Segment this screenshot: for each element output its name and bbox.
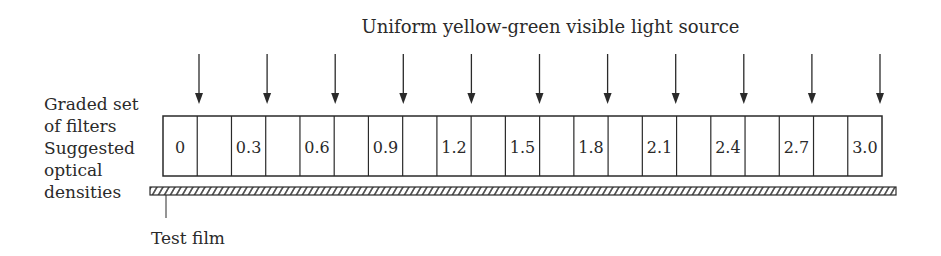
filter-density-value: 1.8: [578, 138, 603, 157]
filter-density-value: 2.7: [784, 138, 809, 157]
down-arrow-icon: [195, 54, 203, 104]
filter-density-value: 1.5: [510, 138, 535, 157]
down-arrow-icon: [536, 54, 544, 104]
down-arrow-icon: [876, 54, 884, 104]
down-arrow-icon: [604, 54, 612, 104]
filter-density-value: 0: [175, 138, 185, 157]
down-arrow-icon: [467, 54, 475, 104]
down-arrow-icon: [331, 54, 339, 104]
filter-density-value: 0.3: [236, 138, 261, 157]
down-arrow-icon: [808, 54, 816, 104]
filter-density-value: 1.2: [441, 138, 466, 157]
down-arrow-icon: [399, 54, 407, 104]
down-arrow-icon: [740, 54, 748, 104]
light-arrows: [195, 54, 884, 104]
filter-diagram: 00.30.60.91.21.51.82.12.42.73.0: [0, 0, 941, 256]
filter-strip: 00.30.60.91.21.51.82.12.42.73.0: [163, 116, 882, 176]
down-arrow-icon: [263, 54, 271, 104]
test-film-strip: [150, 187, 896, 218]
filter-density-value: 2.4: [715, 138, 740, 157]
filter-density-value: 3.0: [852, 138, 877, 157]
down-arrow-icon: [672, 54, 680, 104]
filter-density-value: 2.1: [647, 138, 672, 157]
filter-density-value: 0.9: [373, 138, 398, 157]
filter-density-value: 0.6: [304, 138, 329, 157]
